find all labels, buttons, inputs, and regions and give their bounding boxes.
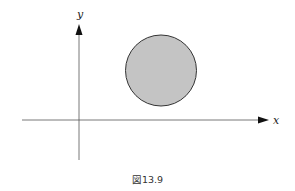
figure-caption: 図13.9 [0, 172, 295, 186]
x-axis [22, 117, 269, 124]
shaded-circle [126, 35, 197, 106]
x-axis-arrow-icon [258, 117, 269, 124]
y-axis-arrow-icon [76, 24, 83, 35]
x-axis-label: x [273, 114, 280, 127]
coordinate-diagram: x y [0, 0, 295, 191]
y-axis [76, 24, 83, 160]
y-axis-label: y [76, 8, 84, 21]
